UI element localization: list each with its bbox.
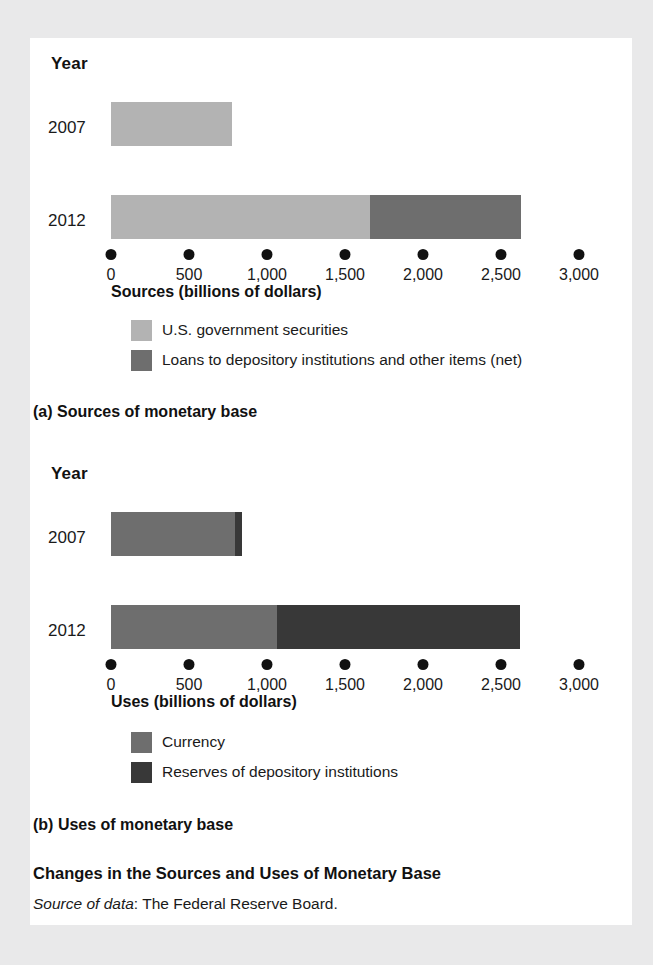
x-tick-dot	[106, 249, 117, 260]
figure-panel: Year 2007 2012 05001,0001,5002,0002,5003…	[30, 38, 632, 925]
x-axis-title-b: Uses (billions of dollars)	[111, 693, 297, 711]
legend-swatch-icon	[131, 762, 152, 783]
x-tick-label: 1,000	[247, 676, 287, 694]
legend-swatch-icon	[131, 350, 152, 371]
bar-segment-b-2007-currency	[111, 512, 235, 556]
x-tick-dot	[574, 249, 585, 260]
year-label-b-2007: 2007	[48, 528, 86, 548]
x-axis-a: 05001,0001,5002,0002,5003,000	[111, 249, 579, 261]
figure-page: Year 2007 2012 05001,0001,5002,0002,5003…	[0, 0, 653, 965]
bar-segment-a-2012-loans	[370, 195, 521, 239]
source-label: Source of data	[33, 895, 134, 912]
legend-item: U.S. government securities	[131, 317, 522, 343]
legend-item: Reserves of depository institutions	[131, 759, 398, 785]
source-value: : The Federal Reserve Board.	[134, 895, 338, 912]
bar-b-2012	[111, 605, 520, 649]
year-label-a-2012: 2012	[48, 211, 86, 231]
x-axis-title-a: Sources (billions of dollars)	[111, 283, 322, 301]
bar-segment-b-2007-reserves	[235, 512, 242, 556]
bar-segment-a-2012-securities	[111, 195, 370, 239]
legend-a: U.S. government securitiesLoans to depos…	[131, 317, 522, 377]
year-label-a-2007: 2007	[48, 118, 86, 138]
x-tick-label: 0	[107, 676, 116, 694]
bar-segment-a-2007-securities	[111, 102, 232, 146]
x-tick-dot	[418, 249, 429, 260]
x-tick-label: 3,000	[559, 676, 599, 694]
legend-label: Reserves of depository institutions	[162, 763, 398, 781]
legend-b: CurrencyReserves of depository instituti…	[131, 729, 398, 789]
x-tick-dot	[262, 659, 273, 670]
x-tick-dot	[496, 249, 507, 260]
legend-swatch-icon	[131, 320, 152, 341]
year-label-b-2012: 2012	[48, 621, 86, 641]
x-tick-label: 1,000	[247, 266, 287, 284]
bar-segment-b-2012-reserves	[277, 605, 520, 649]
bar-a-2007	[111, 102, 232, 146]
x-tick-label: 2,000	[403, 676, 443, 694]
x-tick-dot	[340, 659, 351, 670]
caption-a: (a) Sources of monetary base	[33, 403, 257, 421]
x-tick-label: 2,000	[403, 266, 443, 284]
legend-item: Currency	[131, 729, 398, 755]
legend-label: Currency	[162, 733, 225, 751]
legend-label: Loans to depository institutions and oth…	[162, 351, 522, 369]
year-axis-heading-b: Year	[51, 464, 88, 484]
x-tick-dot	[340, 249, 351, 260]
source-of-data: Source of data: The Federal Reserve Boar…	[33, 895, 338, 913]
x-tick-dot	[184, 659, 195, 670]
x-tick-label: 3,000	[559, 266, 599, 284]
bar-segment-b-2012-currency	[111, 605, 277, 649]
x-tick-label: 2,500	[481, 266, 521, 284]
year-axis-heading-a: Year	[51, 54, 88, 74]
x-tick-label: 500	[176, 676, 203, 694]
x-axis-b: 05001,0001,5002,0002,5003,000	[111, 659, 579, 671]
figure-title: Changes in the Sources and Uses of Monet…	[33, 864, 441, 883]
x-tick-label: 500	[176, 266, 203, 284]
legend-item: Loans to depository institutions and oth…	[131, 347, 522, 373]
x-tick-dot	[106, 659, 117, 670]
x-tick-dot	[184, 249, 195, 260]
legend-label: U.S. government securities	[162, 321, 348, 339]
x-tick-label: 1,500	[325, 676, 365, 694]
x-tick-dot	[496, 659, 507, 670]
x-tick-dot	[574, 659, 585, 670]
x-tick-dot	[418, 659, 429, 670]
caption-b: (b) Uses of monetary base	[33, 816, 233, 834]
bar-b-2007	[111, 512, 242, 556]
x-tick-dot	[262, 249, 273, 260]
bar-a-2012	[111, 195, 521, 239]
x-tick-label: 0	[107, 266, 116, 284]
legend-swatch-icon	[131, 732, 152, 753]
x-tick-label: 2,500	[481, 676, 521, 694]
x-tick-label: 1,500	[325, 266, 365, 284]
